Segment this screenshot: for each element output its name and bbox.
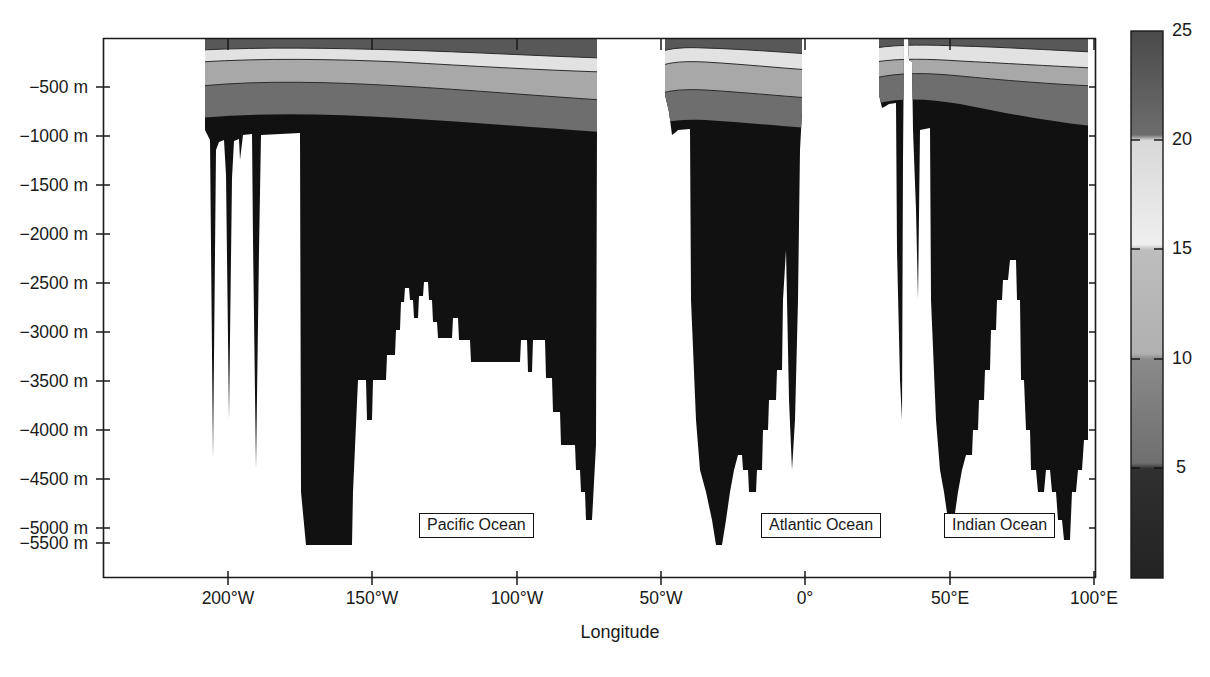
basin-label-atlantic: Atlantic Ocean — [761, 513, 881, 538]
y-tick-label-5500: −5500 m — [0, 533, 88, 554]
y-tick-label-4500: −4500 m — [0, 469, 88, 490]
y-tick-label-2500: −2500 m — [0, 273, 88, 294]
y-tick-label-1500: −1500 m — [0, 175, 88, 196]
colorbar-gradient — [1131, 31, 1163, 578]
basin-label-indian: Indian Ocean — [944, 513, 1055, 538]
y-tick-label-3500: −3500 m — [0, 371, 88, 392]
pacific-water-column — [200, 38, 602, 558]
x-tick-label-0: 0° — [755, 588, 855, 609]
x-axis-title: Longitude — [520, 622, 720, 643]
y-tick-label-500: −500 m — [0, 77, 88, 98]
basin-label-pacific: Pacific Ocean — [419, 513, 534, 538]
x-tick-label-100E: 100°E — [1044, 588, 1144, 609]
x-tick-label-150W: 150°W — [322, 588, 422, 609]
y-tick-label-1000: −1000 m — [0, 126, 88, 147]
section-plot-svg — [0, 0, 1210, 677]
x-tick-label-200W: 200°W — [178, 588, 278, 609]
y-tick-label-2000: −2000 m — [0, 224, 88, 245]
colorbar-tick-label-15: 15 — [1172, 238, 1192, 259]
colorbar-tick-label-25: 25 — [1172, 20, 1192, 41]
y-tick-label-3000: −3000 m — [0, 322, 88, 343]
colorbar-tick-label-20: 20 — [1172, 129, 1192, 150]
indian-water-column — [875, 38, 1093, 558]
x-tick-label-50E: 50°E — [900, 588, 1000, 609]
y-tick-label-4000: −4000 m — [0, 420, 88, 441]
x-tick-label-100W: 100°W — [467, 588, 567, 609]
ocean-temperature-section-figure: −500 m −1000 m −1500 m −2000 m −2500 m −… — [0, 0, 1210, 677]
atlantic-water-column — [660, 38, 810, 558]
colorbar-tick-label-5: 5 — [1176, 457, 1186, 478]
x-tick-label-50W: 50°W — [611, 588, 711, 609]
colorbar-tick-label-10: 10 — [1172, 348, 1192, 369]
